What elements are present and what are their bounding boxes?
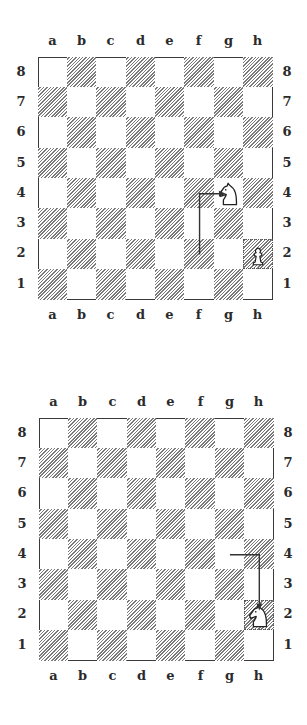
square-a5 (39, 509, 68, 539)
square-e1 (156, 630, 185, 660)
file-label: h (244, 394, 273, 409)
file-label: b (68, 394, 97, 409)
square-a6 (39, 478, 68, 508)
square-f6 (185, 478, 214, 508)
file-label: a (39, 394, 68, 409)
file-label: d (127, 668, 156, 683)
square-g5 (215, 509, 244, 539)
file-label: g (215, 668, 244, 683)
rank-label: 5 (14, 516, 30, 531)
square-h8 (244, 418, 273, 448)
square-g2 (215, 600, 244, 630)
square-c1 (97, 630, 126, 660)
rank-label: 6 (280, 485, 296, 500)
file-label: f (186, 668, 215, 683)
file-label: a (39, 668, 68, 683)
square-d7 (127, 448, 156, 478)
file-label: d (127, 394, 156, 409)
rank-label: 6 (14, 485, 30, 500)
square-e2 (156, 600, 185, 630)
rank-label: 3 (280, 576, 296, 591)
square-b4 (68, 539, 97, 569)
square-g6 (215, 478, 244, 508)
square-e7 (156, 448, 185, 478)
white-knight-icon (245, 600, 274, 630)
square-h1 (244, 630, 273, 660)
square-c5 (97, 509, 126, 539)
square-g7 (215, 448, 244, 478)
square-c8 (97, 418, 126, 448)
square-b7 (68, 448, 97, 478)
rank-label: 8 (280, 425, 296, 440)
square-d6 (127, 478, 156, 508)
square-a1 (39, 630, 68, 660)
square-a7 (39, 448, 68, 478)
square-d1 (127, 630, 156, 660)
square-e4 (156, 539, 185, 569)
square-d3 (127, 569, 156, 599)
square-c6 (97, 478, 126, 508)
file-label: c (98, 668, 127, 683)
square-h4 (244, 539, 273, 569)
square-b5 (68, 509, 97, 539)
square-e3 (156, 569, 185, 599)
square-h3 (244, 569, 273, 599)
square-b1 (68, 630, 97, 660)
chessboard (39, 418, 274, 661)
rank-label: 5 (280, 516, 296, 531)
square-f2 (185, 600, 214, 630)
square-e8 (156, 418, 185, 448)
square-a2 (39, 600, 68, 630)
rank-label: 1 (14, 637, 30, 652)
square-d4 (127, 539, 156, 569)
square-f8 (185, 418, 214, 448)
square-c7 (97, 448, 126, 478)
square-f7 (185, 448, 214, 478)
square-h5 (244, 509, 273, 539)
file-label: h (244, 668, 273, 683)
square-b8 (68, 418, 97, 448)
rank-label: 1 (280, 637, 296, 652)
square-g8 (215, 418, 244, 448)
file-label: b (68, 668, 97, 683)
rank-label: 4 (14, 546, 30, 561)
square-b3 (68, 569, 97, 599)
rank-label: 7 (14, 455, 30, 470)
rank-label: 7 (280, 455, 296, 470)
square-g1 (215, 630, 244, 660)
rank-label: 3 (14, 576, 30, 591)
square-c4 (97, 539, 126, 569)
square-h7 (244, 448, 273, 478)
square-a3 (39, 569, 68, 599)
file-label: c (98, 394, 127, 409)
file-label: e (156, 668, 185, 683)
square-f3 (185, 569, 214, 599)
square-f5 (185, 509, 214, 539)
square-e5 (156, 509, 185, 539)
file-label: g (215, 394, 244, 409)
square-f1 (185, 630, 214, 660)
rank-label: 2 (280, 606, 296, 621)
rank-label: 8 (14, 425, 30, 440)
file-label: f (186, 394, 215, 409)
rank-label: 2 (14, 606, 30, 621)
square-b6 (68, 478, 97, 508)
square-c3 (97, 569, 126, 599)
square-g4 (215, 539, 244, 569)
square-d2 (127, 600, 156, 630)
square-d5 (127, 509, 156, 539)
square-e6 (156, 478, 185, 508)
square-g3 (215, 569, 244, 599)
square-d8 (127, 418, 156, 448)
square-h6 (244, 478, 273, 508)
file-label: e (156, 394, 185, 409)
square-a8 (39, 418, 68, 448)
chess-diagram-2: a b c d e f g h 8 7 6 5 4 3 2 1 8 7 6 5 … (0, 0, 307, 725)
square-b2 (68, 600, 97, 630)
square-a4 (39, 539, 68, 569)
square-f4 (185, 539, 214, 569)
square-c2 (97, 600, 126, 630)
rank-label: 4 (280, 546, 296, 561)
